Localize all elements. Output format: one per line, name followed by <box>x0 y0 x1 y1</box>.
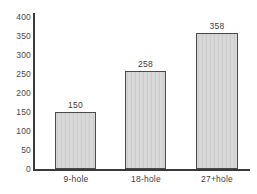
y-axis-line <box>33 13 35 170</box>
x-axis-label-27-plus-hole: 27+hole <box>186 174 248 184</box>
bar-value-18-hole: 258 <box>125 59 166 69</box>
x-axis-label-18-hole: 18-hole <box>115 174 177 184</box>
bar-value-27-plus-hole: 358 <box>196 21 238 31</box>
y-axis-tick-100: 100 <box>3 127 31 136</box>
bar-9-hole <box>55 112 96 169</box>
bar-18-hole <box>125 71 166 169</box>
y-axis-tick-0: 0 <box>3 165 31 174</box>
y-axis-tick-350: 350 <box>3 32 31 41</box>
x-axis-line <box>33 169 250 171</box>
y-axis-tick-50: 50 <box>3 146 31 155</box>
x-axis-label-9-hole: 9-hole <box>45 174 107 184</box>
y-axis-tick-250: 250 <box>3 70 31 79</box>
y-axis-tick-labels: 400 350 300 250 200 150 100 50 0 <box>0 0 31 194</box>
y-axis-tick-150: 150 <box>3 108 31 117</box>
bar-27-plus-hole <box>196 33 238 169</box>
bar-value-9-hole: 150 <box>55 100 96 110</box>
y-axis-tick-300: 300 <box>3 51 31 60</box>
y-axis-tick-200: 200 <box>3 89 31 98</box>
bar-chart: 400 350 300 250 200 150 100 50 0 150 258… <box>0 0 257 194</box>
y-axis-tick-400: 400 <box>3 13 31 22</box>
